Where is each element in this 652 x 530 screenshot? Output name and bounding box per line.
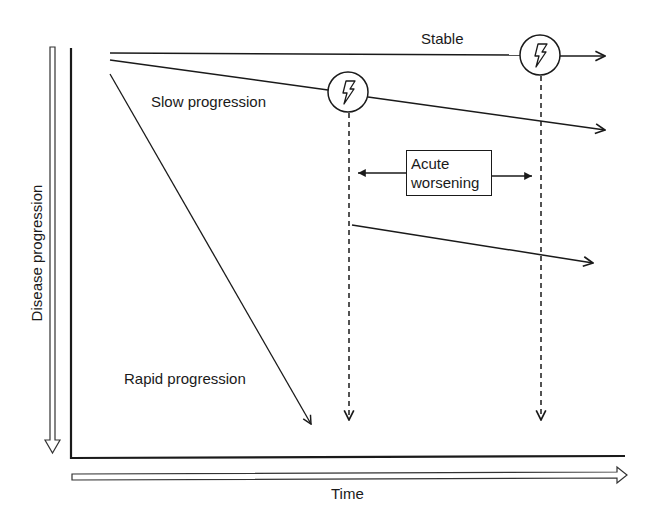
acute-worsening-box: Acute worsening <box>406 150 492 196</box>
x-axis <box>70 456 625 458</box>
slow-progression-label: Slow progression <box>151 93 266 110</box>
y-axis-label: Disease progression <box>28 185 45 322</box>
x-axis-label: Time <box>331 485 364 502</box>
rapid-progression-label: Rapid progression <box>124 370 246 387</box>
acute-worsening-line2: worsening <box>411 173 491 192</box>
event-marker-1 <box>328 72 368 112</box>
progression-diagram <box>0 0 652 530</box>
post-event-trajectory <box>352 225 593 263</box>
x-direction-arrow <box>72 467 627 483</box>
acute-worsening-line1: Acute <box>411 154 491 173</box>
stable-label: Stable <box>421 30 464 47</box>
y-direction-arrow <box>45 47 60 453</box>
event-marker-2 <box>520 35 560 75</box>
